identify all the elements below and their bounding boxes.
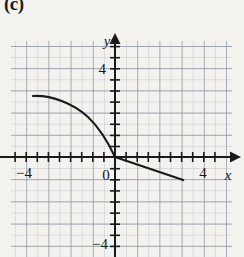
graph-figure: (c) <box>0 0 244 257</box>
y-tick-label-neg4: −4 <box>92 236 108 252</box>
x-axis-label: x <box>224 167 232 183</box>
grid-major <box>11 41 232 257</box>
x-tick-label-4: 4 <box>199 165 207 181</box>
y-tick-label-4: 4 <box>99 61 107 77</box>
coordinate-plane: −4 0 4 4 −4 x y <box>0 0 244 257</box>
x-tick-label-neg4: −4 <box>16 165 32 181</box>
origin-label: 0 <box>102 167 110 183</box>
y-axis-label: y <box>102 33 111 49</box>
